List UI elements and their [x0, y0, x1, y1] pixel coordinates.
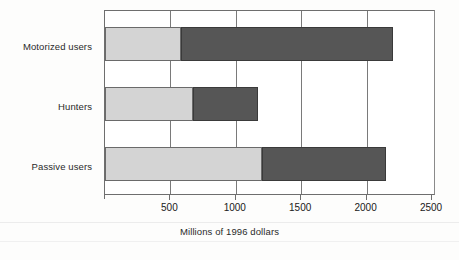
- category-label-hunters: Hunters: [58, 101, 92, 112]
- category-axis-labels: Motorized users Hunters Passive users: [0, 10, 98, 195]
- tick-label-500: 500: [161, 202, 178, 213]
- category-label-passive-users: Passive users: [32, 161, 92, 172]
- tick-mark-2500: [431, 195, 432, 200]
- tick-label-1500: 1500: [289, 202, 311, 213]
- bar-segment-dark: [193, 87, 258, 121]
- tick-label-2500: 2500: [420, 202, 442, 213]
- tick-mark-0: [104, 192, 105, 199]
- stacked-bar-chart: Motorized users Hunters Passive users: [0, 0, 459, 260]
- bar-segment-light: [105, 87, 193, 121]
- tick-mark-500: [169, 195, 170, 200]
- scan-artifact-line-lower: [0, 241, 459, 242]
- bar-segment-dark: [262, 147, 386, 181]
- tick-label-2000: 2000: [354, 202, 376, 213]
- bar-segment-light: [105, 27, 181, 61]
- plot-area: [104, 10, 435, 195]
- x-axis-title: Millions of 1996 dollars: [0, 226, 459, 237]
- tick-mark-1500: [300, 195, 301, 200]
- bar-segment-dark: [181, 27, 393, 61]
- tick-label-1000: 1000: [224, 202, 246, 213]
- x-axis-tick-marks: [104, 195, 435, 201]
- tick-mark-2000: [366, 195, 367, 200]
- x-axis-tick-labels: 500 1000 1500 2000 2500: [104, 202, 435, 216]
- tick-mark-1000: [235, 195, 236, 200]
- scan-artifact-line: [0, 222, 459, 223]
- category-label-motorized-users: Motorized users: [23, 41, 92, 52]
- bar-segment-light: [105, 147, 262, 181]
